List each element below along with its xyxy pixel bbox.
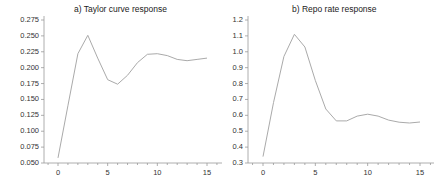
y-tick-label: 0.050	[3, 158, 39, 167]
x-tick-label: 10	[358, 168, 378, 177]
y-tick-label: 0.5	[207, 126, 243, 135]
x-tick-label: 15	[197, 168, 217, 177]
y-tick-label: 0.075	[3, 142, 39, 151]
plot-area	[0, 0, 224, 183]
chart-panel-taylor: a) Taylor curve response 0.2750.2500.225…	[0, 0, 224, 183]
y-tick-label: 0.6	[207, 110, 243, 119]
series-line	[58, 35, 207, 158]
y-tick-label: 0.275	[3, 15, 39, 24]
y-tick-label: 0.7	[207, 94, 243, 103]
x-tick-label: 0	[48, 168, 68, 177]
y-tick-label: 0.200	[3, 63, 39, 72]
y-tick-label: 0.250	[3, 31, 39, 40]
y-tick-label: 0.8	[207, 79, 243, 88]
y-tick-label: 1.2	[207, 15, 243, 24]
x-tick-label: 10	[147, 168, 167, 177]
y-tick-label: 1.1	[207, 31, 243, 40]
y-tick-label: 0.9	[207, 63, 243, 72]
y-tick-label: 0.125	[3, 110, 39, 119]
y-tick-label: 1.0	[207, 47, 243, 56]
y-tick-label: 0.175	[3, 79, 39, 88]
chart-title: a) Taylor curve response	[74, 4, 167, 14]
x-tick-label: 0	[253, 168, 273, 177]
y-tick-label: 0.100	[3, 126, 39, 135]
x-tick-label: 5	[305, 168, 325, 177]
x-tick-label: 5	[98, 168, 118, 177]
chart-title: b) Repo rate response	[292, 4, 377, 14]
y-tick-label: 0.225	[3, 47, 39, 56]
plot-area	[224, 0, 448, 183]
x-tick-label: 15	[410, 168, 430, 177]
y-tick-label: 0.3	[207, 158, 243, 167]
chart-panel-repo: b) Repo rate response 1.21.11.00.90.80.7…	[224, 0, 448, 183]
series-line	[263, 34, 420, 156]
y-tick-label: 0.150	[3, 94, 39, 103]
y-tick-label: 0.4	[207, 142, 243, 151]
